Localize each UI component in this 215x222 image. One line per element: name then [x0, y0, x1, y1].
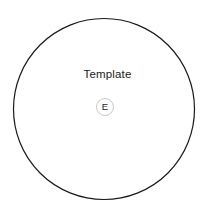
entity-badge-letter: E — [102, 102, 108, 112]
entity-badge[interactable]: E — [96, 98, 114, 116]
template-title-label: Template — [0, 67, 215, 81]
diagram-canvas: Template E — [0, 0, 215, 222]
